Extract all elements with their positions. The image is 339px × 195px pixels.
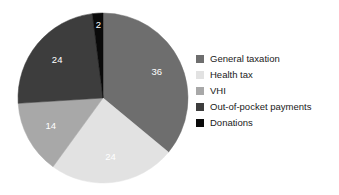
legend-item[interactable]: Donations [196,115,339,131]
pie-chart-figure: 362414242 General taxationHealth taxVHIO… [0,0,339,195]
legend-swatch-icon [196,87,204,95]
pie-data-label: 36 [152,66,163,77]
legend-swatch-icon [196,119,204,127]
legend-item-label: VHI [210,86,226,96]
legend-item[interactable]: General taxation [196,51,339,67]
legend-item-label: Health tax [210,70,253,80]
legend-swatch-icon [196,103,204,111]
pie-data-label: 24 [105,151,116,162]
legend-item-label: Out-of-pocket payments [210,102,311,112]
legend-item[interactable]: Health tax [196,67,339,83]
pie-data-label: 2 [96,19,101,30]
chart-legend: General taxationHealth taxVHIOut-of-pock… [196,51,339,131]
pie-slice-group [18,13,188,183]
pie-chart: 362414242 [0,0,196,195]
legend-item[interactable]: Out-of-pocket payments [196,99,339,115]
legend-swatch-icon [196,55,204,63]
legend-item-label: Donations [210,118,253,128]
legend-item-label: General taxation [210,54,280,64]
legend-item[interactable]: VHI [196,83,339,99]
pie-data-label: 14 [46,120,57,131]
legend-swatch-icon [196,71,204,79]
pie-data-label: 24 [52,54,63,65]
